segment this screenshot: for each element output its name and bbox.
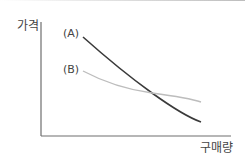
curve-b-label: (B) — [63, 64, 79, 75]
y-axis-label: 가격 — [17, 20, 39, 32]
curve-a-label: (A) — [63, 28, 79, 39]
x-axis-label: 구매량 — [200, 142, 233, 154]
